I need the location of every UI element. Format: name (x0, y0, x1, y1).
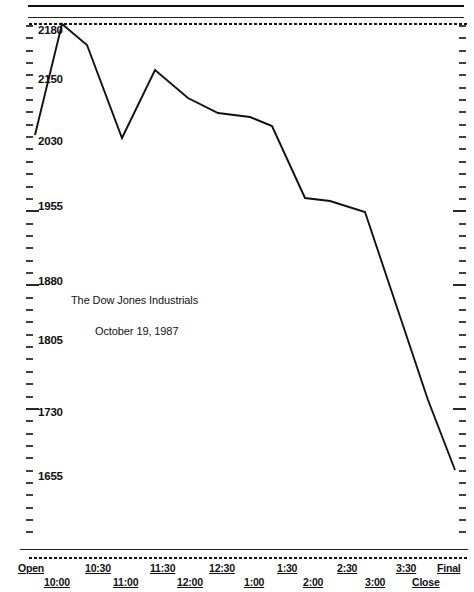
y-tick-label-2150: 2150 (38, 73, 63, 85)
y-tick-label-1955: 1955 (38, 200, 63, 212)
y-tick-label-1880: 1880 (38, 275, 63, 287)
y-tick-label-1805: 1805 (38, 334, 63, 346)
chart-title: The Dow Jones Industrials (71, 294, 198, 306)
x-tick-label-3-30: 3:30 (396, 562, 416, 574)
y-tick-label-1655: 1655 (38, 470, 63, 482)
x-tick-label-12-30: 12:30 (209, 562, 235, 574)
x-tick-label-1-00: 1:00 (244, 576, 264, 588)
x-tick-label-3-00: 3:00 (365, 576, 385, 588)
y-axis-right-ticks (453, 26, 466, 532)
y-tick-label-1730: 1730 (38, 406, 63, 418)
x-tick-label-final: Final (437, 562, 461, 574)
x-tick-label-1-30: 1:30 (277, 562, 297, 574)
y-tick-label-2030: 2030 (38, 135, 63, 147)
x-tick-label-12-00: 12:00 (177, 576, 203, 588)
x-tick-label-10-30: 10:30 (85, 562, 111, 574)
x-tick-label-open: Open (18, 562, 44, 574)
x-tick-label-2-30: 2:30 (337, 562, 357, 574)
x-tick-label-11-00: 11:00 (113, 576, 138, 588)
dow-jones-chart-figure: 21802150203019551880180517301655 Open10:… (0, 0, 474, 592)
dow-jones-price-line (35, 24, 455, 470)
x-tick-label-close: Close (412, 576, 440, 588)
x-tick-label-10-00: 10:00 (44, 576, 70, 588)
x-tick-label-11-30: 11:30 (150, 562, 175, 574)
y-tick-label-2180: 2180 (38, 24, 63, 36)
chart-subtitle: October 19, 1987 (95, 325, 178, 337)
x-tick-label-2-00: 2:00 (303, 576, 323, 588)
